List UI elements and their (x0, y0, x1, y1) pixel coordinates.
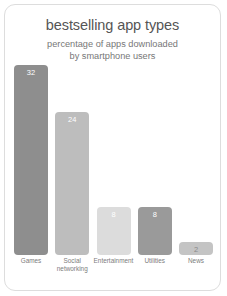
bar-slot-utilities: 8 (138, 65, 172, 255)
bar-slot-entertainment: 8 (97, 65, 131, 255)
bar-value-entertainment: 8 (111, 210, 115, 219)
bar-news[interactable]: 2 (179, 242, 213, 255)
x-label-social-networking: Social networking (52, 257, 92, 273)
bar-value-utilities: 8 (153, 210, 157, 219)
x-label-entertainment-line-1: Entertainment (94, 257, 134, 265)
bar-chart-plot-area: 32 24 8 8 2 (14, 65, 213, 255)
x-label-games-line-1: Games (11, 257, 51, 265)
chart-subtitle: percentage of apps downloaded by smartph… (5, 39, 220, 62)
bar-social-networking[interactable]: 24 (55, 112, 89, 255)
bar-series: 32 24 8 8 2 (14, 65, 213, 255)
bar-slot-news: 2 (179, 65, 213, 255)
bar-slot-social-networking: 24 (55, 65, 89, 255)
x-label-games: Games (11, 257, 51, 273)
chart-card: bestselling app types percentage of apps… (4, 4, 221, 291)
chart-subtitle-line-2: by smartphone users (5, 51, 220, 63)
x-label-utilities: Utilities (135, 257, 175, 273)
bar-games[interactable]: 32 (14, 65, 48, 255)
chart-subtitle-line-1: percentage of apps downloaded (5, 39, 220, 51)
x-label-social-networking-line-2: networking (52, 265, 92, 273)
bar-value-news: 2 (194, 245, 198, 254)
x-axis-labels: Games Social networking Entertainment Ut… (14, 257, 213, 273)
bar-value-games: 32 (27, 68, 35, 77)
x-label-social-networking-line-1: Social (52, 257, 92, 265)
x-label-news-line-1: News (176, 257, 216, 265)
bar-utilities[interactable]: 8 (138, 207, 172, 255)
bar-value-social-networking: 24 (68, 115, 76, 124)
chart-title: bestselling app types (5, 16, 220, 34)
bar-slot-games: 32 (14, 65, 48, 255)
x-label-news: News (176, 257, 216, 273)
x-label-entertainment: Entertainment (94, 257, 134, 273)
bar-entertainment[interactable]: 8 (97, 207, 131, 255)
chart-header: bestselling app types percentage of apps… (5, 16, 220, 62)
x-label-utilities-line-1: Utilities (135, 257, 175, 265)
